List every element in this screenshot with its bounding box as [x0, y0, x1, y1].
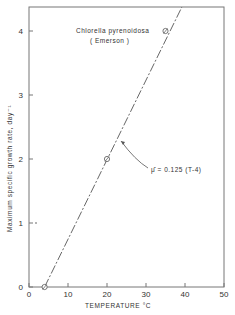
plot-frame — [29, 7, 224, 287]
x-tick-label: 40 — [181, 290, 190, 299]
arrowhead-icon — [121, 141, 125, 145]
species-label: Chlorella pyrenoidosa — [76, 27, 149, 35]
y-axis-ticks: 01234 — [19, 27, 33, 292]
y-axis-title: Maximum specific growth rate, day⁻¹ — [6, 105, 14, 232]
growth-rate-chart: 01020304050 01234 Chlorella pyrenoidosa … — [0, 0, 235, 315]
stray-mark — [35, 222, 37, 224]
data-markers — [42, 28, 168, 289]
y-tick-label: 1 — [19, 219, 24, 228]
x-axis-ticks: 01020304050 — [27, 283, 229, 299]
x-tick-label: 0 — [27, 290, 32, 299]
x-tick-label: 50 — [220, 290, 229, 299]
fit-line — [45, 7, 182, 287]
fit-line-path — [45, 7, 182, 287]
source-label: ( Emerson ) — [90, 37, 129, 45]
x-tick-label: 10 — [64, 290, 73, 299]
y-tick-label: 3 — [19, 91, 24, 100]
x-tick-label: 20 — [103, 290, 112, 299]
x-axis-title: TEMPERATURE °C — [85, 302, 151, 309]
annotation-arrow — [121, 141, 148, 168]
equation-label: μ̂ = 0.125 (T-4) — [151, 166, 201, 174]
y-tick-label: 4 — [19, 27, 24, 36]
x-tick-label: 30 — [142, 290, 151, 299]
y-tick-label: 0 — [19, 283, 24, 292]
y-tick-label: 2 — [19, 155, 24, 164]
